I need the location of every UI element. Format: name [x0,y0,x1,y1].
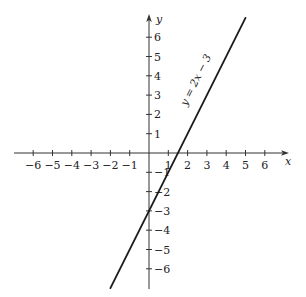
x-tick-label: −4 [64,159,80,172]
y-tick-label: 6 [154,31,161,44]
y-tick-label: −3 [154,205,170,218]
y-tick-label: −6 [154,263,170,276]
y-axis-label: y [155,13,163,26]
x-tick-label: −1 [122,159,138,172]
x-tick-label: 3 [203,159,210,172]
x-tick-label: −2 [102,159,118,172]
y-tick-label: −4 [154,224,170,237]
y-axis [146,14,152,289]
x-tick-label: −5 [44,159,60,172]
coordinate-plane: −6−5−4−3−2−1123456 −6−5−4−3−2−1123456 x … [0,0,306,297]
x-tick-label: −3 [83,159,99,172]
y-tick-label: 1 [154,128,161,141]
y-tick-label: 3 [154,89,161,102]
x-tick-label: 6 [261,159,268,172]
y-tick-label: 2 [154,108,161,121]
y-tick-label: −5 [154,244,170,257]
x-axis [14,150,289,156]
x-axis-label: x [285,155,292,168]
x-tick-label: 2 [184,159,191,172]
y-tick-label: 4 [154,70,161,83]
x-tick-label: −6 [25,159,41,172]
equation-label: y = 2x − 3 [177,52,213,109]
x-tick-label: 4 [223,159,230,172]
x-tick-label: 5 [242,159,249,172]
y-tick-label: 5 [154,51,161,64]
